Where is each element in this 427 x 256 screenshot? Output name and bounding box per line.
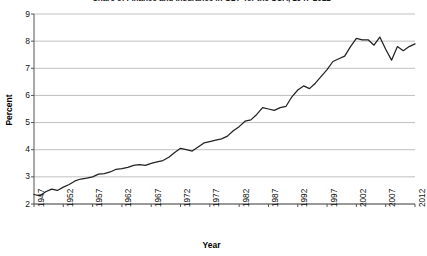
y-tick-label: 4 xyxy=(8,145,30,154)
x-tick-label: 2012 xyxy=(419,189,427,207)
line-chart-svg xyxy=(34,14,415,204)
y-tick-label: 8 xyxy=(8,37,30,46)
x-tick-label: 1997 xyxy=(331,189,339,207)
x-tick-label: 1992 xyxy=(301,189,309,207)
y-tick-label: 7 xyxy=(8,64,30,73)
x-axis-tick-labels: 1947195219571962196719721977198219871992… xyxy=(34,206,415,240)
y-tick-label: 6 xyxy=(8,91,30,100)
y-axis-tick-labels: 98765432 xyxy=(4,14,30,204)
x-tick-label: 1957 xyxy=(96,189,104,207)
x-tick-label: 1977 xyxy=(213,189,221,207)
x-tick-label: 1987 xyxy=(272,189,280,207)
axis-lines xyxy=(31,14,415,204)
x-tick-label: 2002 xyxy=(360,189,368,207)
chart-title: Share of Finance and Insurance in GDP fo… xyxy=(0,0,423,3)
gridlines xyxy=(34,14,415,204)
x-axis-title: Year xyxy=(0,240,423,250)
x-tick-label: 1947 xyxy=(38,189,46,207)
plot-area xyxy=(34,14,415,204)
data-line-series xyxy=(34,37,415,196)
x-tick-label: 1952 xyxy=(67,189,75,207)
x-tick-label: 1962 xyxy=(125,189,133,207)
x-tick-label: 1967 xyxy=(155,189,163,207)
y-tick-label: 9 xyxy=(8,10,30,19)
y-tick-label: 2 xyxy=(8,200,30,209)
y-tick-label: 5 xyxy=(8,118,30,127)
x-tick-label: 1972 xyxy=(184,189,192,207)
x-tick-label: 2007 xyxy=(389,189,397,207)
x-tick-label: 1982 xyxy=(243,189,251,207)
y-tick-label: 3 xyxy=(8,172,30,181)
